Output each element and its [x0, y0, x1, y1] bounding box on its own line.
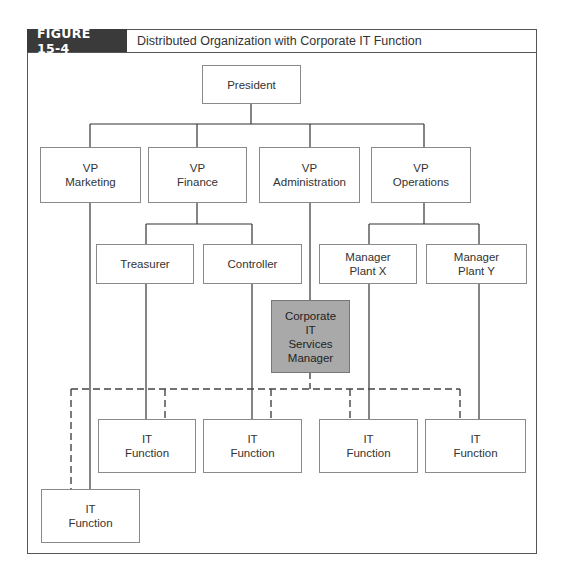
node-it-function-marketing: IT Function	[41, 489, 140, 543]
node-vp-marketing: VP Marketing	[40, 147, 141, 203]
node-it-function-plant-y: IT Function	[425, 419, 526, 473]
node-controller: Controller	[203, 244, 302, 284]
node-manager-plant-x: Manager Plant X	[319, 244, 417, 284]
node-manager-plant-y: Manager Plant Y	[426, 244, 527, 284]
node-treasurer: Treasurer	[96, 244, 194, 284]
node-corporate-it-services-manager: Corporate IT Services Manager	[271, 300, 350, 373]
node-president: President	[202, 65, 301, 104]
node-vp-finance: VP Finance	[148, 147, 247, 203]
node-it-function-plant-x: IT Function	[319, 419, 418, 473]
node-vp-administration: VP Administration	[259, 147, 360, 203]
node-it-function-controller: IT Function	[203, 419, 302, 473]
node-vp-operations: VP Operations	[371, 147, 471, 203]
node-it-function-treasurer: IT Function	[98, 419, 196, 473]
